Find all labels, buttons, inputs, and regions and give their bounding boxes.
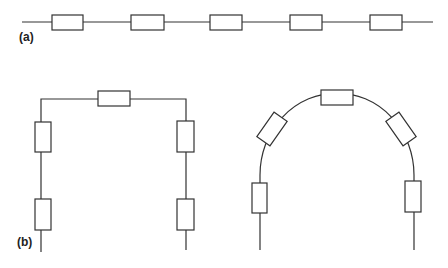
resistor bbox=[386, 112, 416, 146]
resistor bbox=[131, 15, 164, 30]
panel-label-a: (a) bbox=[19, 30, 34, 44]
resistor bbox=[290, 15, 322, 30]
resistor bbox=[35, 122, 51, 152]
resistor-diagram bbox=[0, 0, 448, 268]
panel-label-b: (b) bbox=[17, 235, 32, 249]
resistor bbox=[370, 15, 402, 30]
resistor bbox=[321, 90, 353, 105]
resistor bbox=[177, 121, 194, 152]
resistor bbox=[210, 15, 242, 30]
resistor bbox=[52, 15, 83, 30]
rectangular-arch-chain bbox=[35, 91, 194, 252]
resistor bbox=[252, 183, 267, 213]
resistor bbox=[405, 181, 421, 212]
resistor bbox=[98, 91, 130, 106]
straight-resistor-chain bbox=[22, 15, 433, 30]
resistor bbox=[35, 199, 51, 230]
rounded-arch-chain bbox=[252, 90, 421, 250]
resistor bbox=[177, 199, 194, 230]
